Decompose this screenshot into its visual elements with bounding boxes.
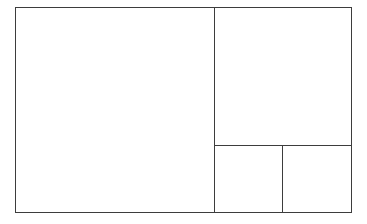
region-aside-bottom-left[interactable] <box>214 145 283 213</box>
layout-wireframe-frame <box>15 7 352 213</box>
diagram-canvas <box>0 0 367 224</box>
region-main[interactable] <box>15 7 215 213</box>
region-aside-top[interactable] <box>214 7 352 146</box>
region-aside-bottom-right[interactable] <box>282 145 352 213</box>
